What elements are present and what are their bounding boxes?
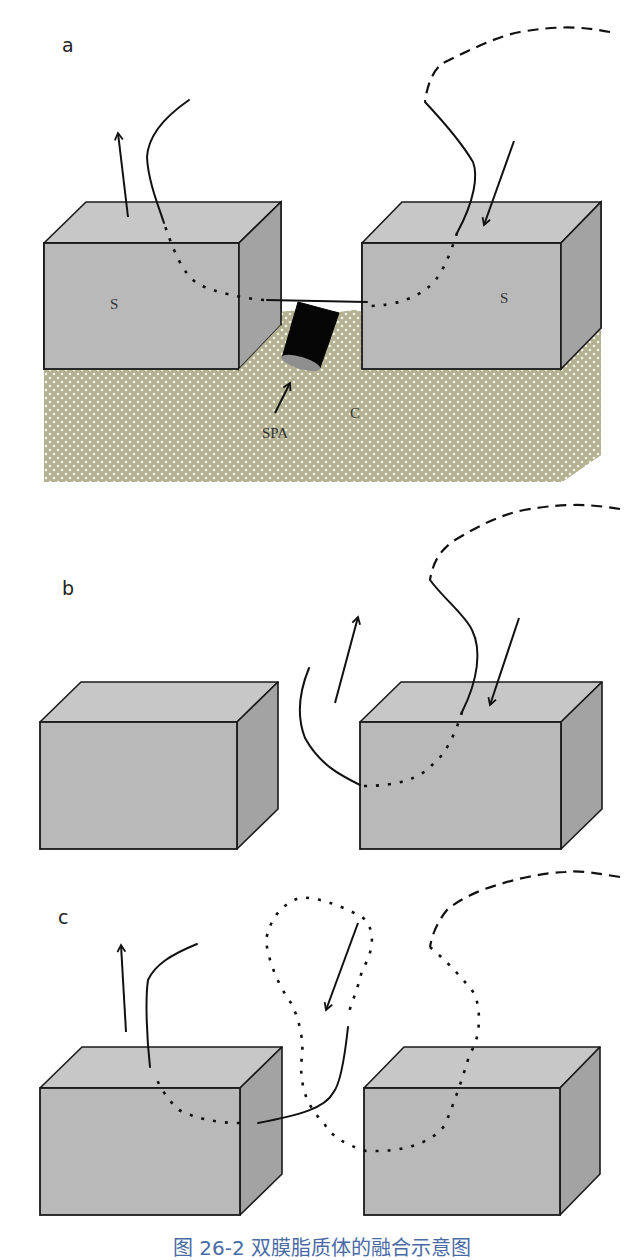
dashed-trace <box>425 27 610 102</box>
solid-trace <box>300 668 360 785</box>
dashed-trace <box>430 871 620 947</box>
label-c: C <box>350 405 360 421</box>
figure-caption: 图 26-2 双膜脂质体的融合示意图 <box>0 1236 644 1260</box>
cell-block-s-2 <box>364 1047 600 1215</box>
label-spa: SPA <box>262 425 288 441</box>
box-top-face <box>362 202 601 243</box>
arrow-icon <box>121 945 126 1032</box>
panel-label-b: b <box>62 577 74 599</box>
dashed-trace <box>430 505 620 580</box>
cell-block-s-1 <box>40 1047 282 1215</box>
label-s: S <box>110 296 118 312</box>
panel-a: aSSSPAC <box>44 27 610 482</box>
panel-b: b <box>40 505 620 849</box>
panel-label-c: c <box>58 906 68 928</box>
box-front-face <box>362 243 561 369</box>
panels-group: aSSSPACbc <box>40 27 620 1215</box>
box-front-face <box>360 722 561 849</box>
box-front-face <box>40 722 237 849</box>
panel-label-a: a <box>62 34 74 56</box>
box-front-face <box>40 1088 240 1215</box>
panel-c: c <box>40 871 620 1215</box>
box-top-face <box>364 1047 600 1088</box>
solid-trace <box>267 300 367 302</box>
cell-block-s-1 <box>40 682 278 849</box>
arrow-icon <box>335 617 358 703</box>
label-s: S <box>500 290 508 306</box>
box-front-face <box>364 1088 560 1215</box>
cell-block-s-2 <box>360 682 602 849</box>
box-front-face <box>44 243 239 369</box>
box-top-face <box>360 682 602 722</box>
